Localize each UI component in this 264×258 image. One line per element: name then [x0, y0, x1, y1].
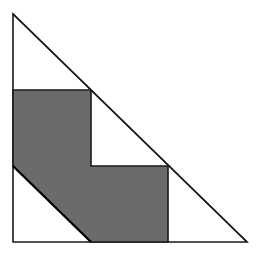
geometry-diagram	[0, 0, 264, 258]
